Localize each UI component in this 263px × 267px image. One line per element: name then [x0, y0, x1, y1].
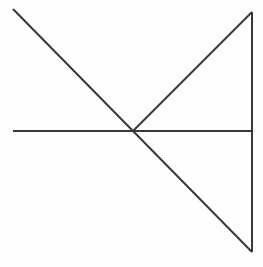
line-figure-canvas	[0, 0, 263, 267]
line-figure-svg	[0, 0, 263, 267]
